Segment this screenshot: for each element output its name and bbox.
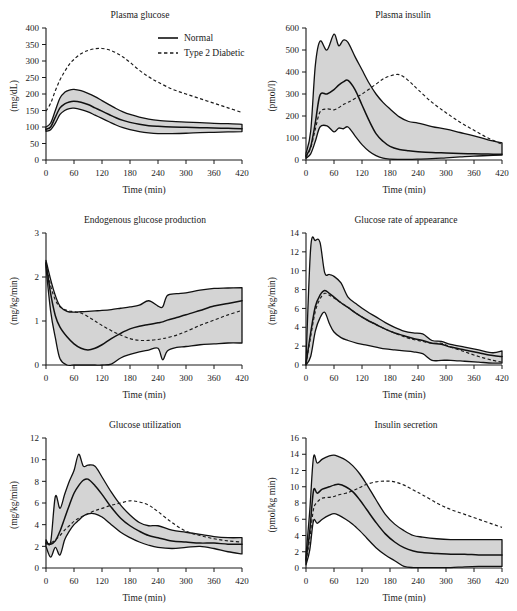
y-tick-label: 8 (295, 498, 300, 508)
x-tick-label: 240 (151, 373, 165, 383)
y-tick-label: 4 (295, 531, 300, 541)
chart-grid: Plasma glucose 0501001502002503003504000… (0, 0, 517, 611)
x-tick-label: 240 (411, 576, 425, 586)
y-tick-label: 200 (286, 111, 300, 121)
x-tick-label: 120 (355, 576, 369, 586)
y-axis-title: (mg/kg/min) (9, 277, 20, 325)
y-tick-label: 400 (286, 67, 300, 77)
panel-endogenous-glucose-production: Endogenous glucose production 0123060120… (0, 205, 258, 410)
y-tick-label: 150 (26, 106, 40, 116)
panel-glucose-utilization: Glucose utilization 02468101206012018024… (0, 410, 258, 611)
panel-glucose-rate-of-appearance: Glucose rate of appearance 0246810121406… (258, 205, 517, 410)
plot-area: 0246810121416060120180240300360420Time (… (267, 433, 509, 604)
x-tick-label: 120 (95, 373, 109, 383)
x-axis-title: Time (min) (122, 185, 165, 196)
x-axis-title: Time (min) (382, 390, 425, 401)
y-tick-label: 2 (35, 542, 40, 552)
x-tick-label: 60 (70, 168, 80, 178)
normal-range-band (306, 34, 502, 159)
panel-title: Endogenous glucose production (84, 215, 206, 225)
x-tick-label: 360 (207, 168, 221, 178)
x-tick-label: 120 (355, 373, 369, 383)
x-tick-label: 300 (439, 373, 453, 383)
y-tick-label: 50 (30, 139, 40, 149)
y-tick-label: 10 (290, 266, 300, 276)
x-tick-label: 240 (411, 168, 425, 178)
x-tick-label: 180 (383, 373, 397, 383)
y-tick-label: 12 (290, 466, 299, 476)
x-axis-title: Time (min) (382, 185, 425, 196)
y-tick-label: 0 (35, 155, 40, 165)
y-tick-label: 10 (290, 482, 300, 492)
plot-area: 0501001502002503003504000601201802403003… (9, 23, 249, 196)
x-tick-label: 60 (70, 373, 80, 383)
x-tick-label: 240 (151, 576, 165, 586)
x-tick-label: 360 (467, 168, 481, 178)
y-tick-label: 1 (35, 316, 40, 326)
y-tick-label: 250 (26, 73, 40, 83)
y-tick-label: 12 (290, 247, 299, 257)
panel-plasma-glucose: Plasma glucose 0501001502002503003504000… (0, 0, 258, 205)
x-axis-title: Time (min) (382, 593, 425, 604)
y-tick-label: 600 (286, 23, 300, 33)
y-axis-title: (pmol/kg min) (267, 477, 278, 532)
y-tick-label: 2 (295, 341, 300, 351)
y-tick-label: 0 (295, 155, 300, 165)
y-tick-label: 0 (35, 360, 40, 370)
x-tick-label: 420 (235, 576, 249, 586)
y-tick-label: 2 (295, 547, 300, 557)
x-tick-label: 180 (383, 576, 397, 586)
x-tick-label: 420 (235, 373, 249, 383)
panel-title: Glucose rate of appearance (354, 215, 457, 225)
y-tick-label: 8 (295, 285, 300, 295)
y-tick-label: 200 (26, 89, 40, 99)
y-tick-label: 300 (26, 56, 40, 66)
x-tick-label: 360 (467, 576, 481, 586)
normal-range-band (306, 237, 502, 365)
x-tick-label: 0 (44, 373, 49, 383)
x-tick-label: 300 (439, 576, 453, 586)
x-tick-label: 420 (235, 168, 249, 178)
x-tick-label: 360 (207, 576, 221, 586)
y-tick-label: 4 (295, 322, 300, 332)
x-tick-label: 120 (355, 168, 369, 178)
y-tick-label: 6 (295, 514, 300, 524)
x-tick-label: 300 (439, 168, 453, 178)
x-axis-title: Time (min) (122, 593, 165, 604)
x-tick-label: 60 (70, 576, 80, 586)
plot-area: 0123060120180240300360420Time (min)(mg/k… (9, 228, 249, 401)
x-axis-title: Time (min) (122, 390, 165, 401)
y-tick-label: 10 (30, 455, 40, 465)
y-tick-label: 6 (35, 498, 40, 508)
x-tick-label: 60 (330, 168, 340, 178)
x-tick-label: 420 (495, 373, 509, 383)
panel-title: Plasma insulin (375, 10, 431, 20)
y-tick-label: 0 (35, 563, 40, 573)
y-tick-label: 0 (295, 563, 300, 573)
y-tick-label: 8 (35, 477, 40, 487)
plot-area: 02468101214060120180240300360420Time (mi… (267, 228, 509, 401)
x-tick-label: 120 (95, 168, 109, 178)
x-tick-label: 180 (123, 576, 137, 586)
y-axis-title: (mg/dL) (9, 80, 20, 112)
panel-title: Insulin secretion (374, 420, 437, 430)
figure-panel-grid: Plasma glucose 0501001502002503003504000… (0, 0, 517, 611)
y-tick-label: 2 (35, 272, 40, 282)
y-tick-label: 12 (30, 433, 39, 443)
legend-normal-label: Normal (184, 33, 213, 43)
plasma-insulin-svg: Plasma insulin 0100200300400500600060120… (258, 0, 517, 205)
x-tick-label: 0 (304, 373, 309, 383)
egp-svg: Endogenous glucose production 0123060120… (0, 205, 258, 410)
legend-diabetic-label: Type 2 Diabetic (184, 48, 245, 58)
x-tick-label: 0 (304, 168, 309, 178)
x-tick-label: 240 (411, 373, 425, 383)
x-tick-label: 240 (151, 168, 165, 178)
x-tick-label: 180 (123, 373, 137, 383)
y-tick-label: 16 (290, 433, 300, 443)
y-tick-label: 0 (295, 360, 300, 370)
y-axis-title: (mg/kg/min) (9, 481, 20, 529)
glucose-utilization-svg: Glucose utilization 02468101206012018024… (0, 410, 258, 611)
x-tick-label: 360 (207, 373, 221, 383)
y-tick-label: 350 (26, 40, 40, 50)
x-tick-label: 300 (179, 168, 193, 178)
